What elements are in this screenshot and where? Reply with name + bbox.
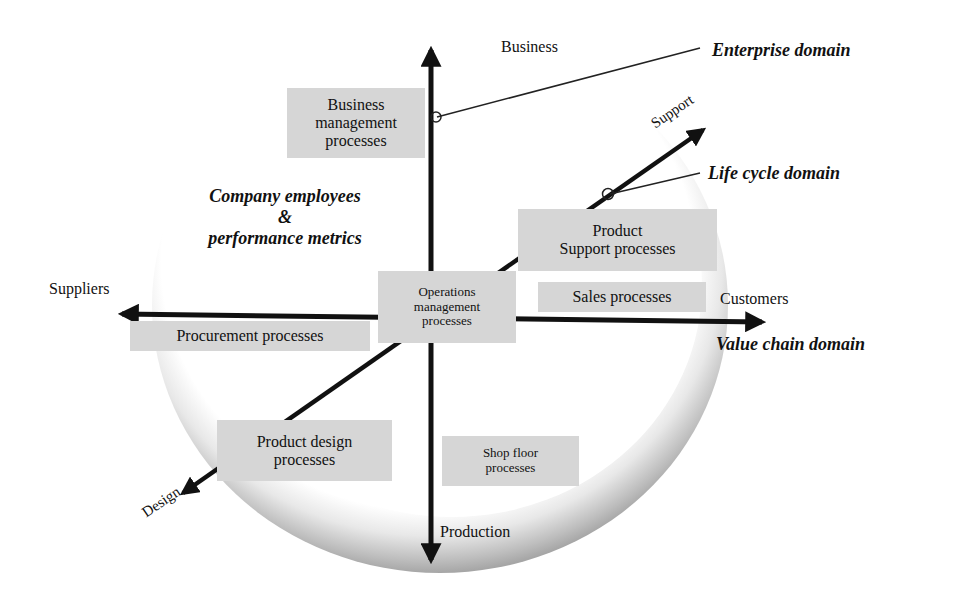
note-line: & bbox=[180, 207, 390, 228]
note-line: performance metrics bbox=[180, 228, 390, 249]
procurement-box: Procurement processes bbox=[130, 321, 370, 351]
box-line: Shop floor bbox=[483, 446, 538, 461]
business-management-box: Business management processes bbox=[287, 88, 425, 158]
box-line: processes bbox=[274, 451, 335, 469]
employees-metrics-note: Company employees & performance metrics bbox=[180, 186, 390, 250]
box-line: Support processes bbox=[560, 240, 676, 258]
product-support-box: Product Support processes bbox=[518, 209, 717, 271]
note-line: Company employees bbox=[180, 186, 390, 207]
axis-label-customers: Customers bbox=[720, 290, 788, 308]
axis-label-business: Business bbox=[501, 38, 558, 56]
box-line: Product design bbox=[257, 433, 353, 451]
lifecycle-domain-label: Life cycle domain bbox=[708, 163, 840, 184]
enterprise-domain-label: Enterprise domain bbox=[712, 40, 851, 61]
box-line: management bbox=[315, 114, 397, 132]
box-line: management bbox=[414, 300, 480, 315]
box-line: Sales processes bbox=[572, 288, 671, 306]
axis-label-production: Production bbox=[440, 523, 510, 541]
box-line: processes bbox=[325, 132, 386, 150]
box-line: Business bbox=[328, 96, 385, 114]
box-line: Product bbox=[593, 222, 643, 240]
box-line: Operations bbox=[418, 285, 475, 300]
operations-management-box: Operations management processes bbox=[378, 271, 516, 343]
box-line: processes bbox=[422, 314, 472, 329]
box-line: Procurement processes bbox=[176, 327, 323, 345]
axis-label-suppliers: Suppliers bbox=[49, 280, 109, 298]
product-design-box: Product design processes bbox=[217, 420, 392, 481]
shop-floor-box: Shop floor processes bbox=[442, 436, 579, 486]
value-chain-domain-label: Value chain domain bbox=[716, 334, 865, 355]
box-line: processes bbox=[486, 461, 536, 476]
sales-box: Sales processes bbox=[538, 282, 706, 312]
